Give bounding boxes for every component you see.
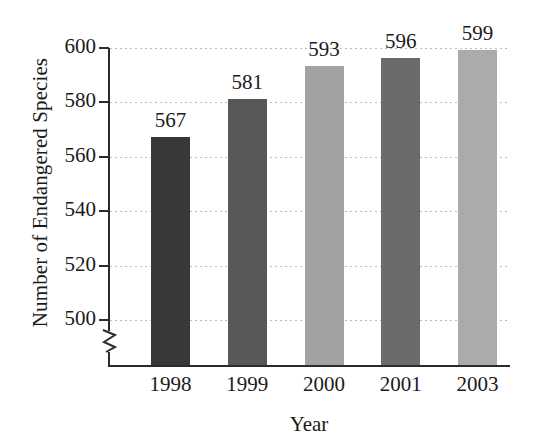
bar-value-label: 599 (462, 21, 494, 46)
y-tick-mark (99, 265, 109, 267)
y-axis-line (108, 48, 110, 331)
y-tick-mark (99, 47, 109, 49)
x-category-label-2003: 2003 (439, 372, 516, 397)
y-tick-label: 540 (65, 197, 97, 222)
y-axis-line-lower-segment (108, 352, 110, 366)
bar-value-label: 567 (155, 108, 187, 133)
y-tick-label: 560 (65, 143, 97, 168)
y-axis-title: Number of Endangered Species (28, 43, 53, 343)
x-category-label-1999: 1999 (209, 372, 286, 397)
x-category-label-2001: 2001 (362, 372, 439, 397)
bar-1998[interactable]: 567 (151, 137, 190, 365)
y-tick-label: 580 (65, 88, 97, 113)
y-tick-mark (99, 319, 109, 321)
y-tick-mark (99, 101, 109, 103)
y-tick-mark (99, 156, 109, 158)
bar-chart: Number of Endangered Species 50052054056… (0, 0, 535, 448)
axis-break-icon (101, 328, 119, 354)
x-category-label-1998: 1998 (132, 372, 209, 397)
x-axis-title: Year (108, 412, 510, 437)
bar-value-label: 581 (231, 70, 263, 95)
y-tick-label: 520 (65, 252, 97, 277)
bar-1999[interactable]: 581 (228, 99, 267, 365)
x-category-label-2000: 2000 (286, 372, 363, 397)
bar-2000[interactable]: 593 (305, 66, 344, 365)
y-tick-label: 600 (65, 34, 97, 59)
bar-2001[interactable]: 596 (381, 58, 420, 365)
bar-2003[interactable]: 599 (458, 50, 497, 365)
plot-area: 500520540560580600 567581593596599 19981… (108, 40, 510, 366)
bar-value-label: 593 (308, 37, 340, 62)
bar-value-label: 596 (385, 29, 417, 54)
y-tick-mark (99, 210, 109, 212)
x-axis-line (108, 365, 510, 367)
y-tick-label: 500 (65, 306, 97, 331)
